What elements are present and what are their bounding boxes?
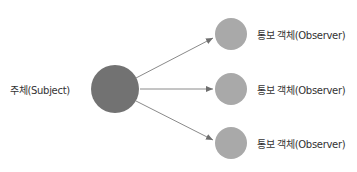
observer-node-3 bbox=[215, 127, 247, 159]
observer-label-3: 통보 객체(Observer) bbox=[257, 136, 345, 151]
subject-label: 주체(Subject) bbox=[10, 82, 70, 97]
observer-node-1 bbox=[215, 18, 247, 50]
observer-node-2 bbox=[215, 73, 247, 105]
observer-label-1: 통보 객체(Observer) bbox=[257, 27, 345, 42]
subject-node bbox=[91, 65, 139, 113]
observer-label-2: 통보 객체(Observer) bbox=[257, 82, 345, 97]
arrow-to-observer-3 bbox=[136, 101, 213, 140]
arrow-to-observer-1 bbox=[136, 38, 213, 78]
